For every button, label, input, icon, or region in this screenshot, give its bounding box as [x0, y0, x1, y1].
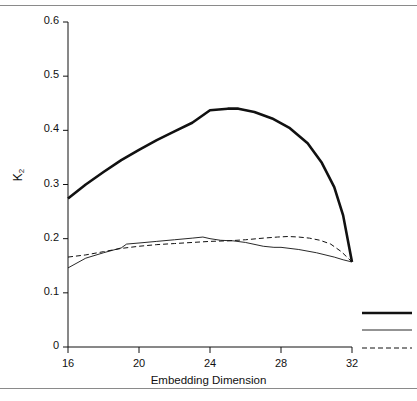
- x-axis-title: Embedding Dimension: [0, 374, 417, 386]
- y-axis-title-symbol: K: [11, 173, 25, 181]
- y-axis-title: K2: [11, 153, 25, 197]
- series-line-dashed: [68, 237, 352, 262]
- y-tick-label: 0: [15, 339, 59, 351]
- y-tick-label: 0.4: [15, 122, 59, 134]
- x-tick-label: 28: [261, 357, 301, 369]
- y-tick-label: 0.1: [15, 285, 59, 297]
- x-tick-label: 16: [48, 357, 88, 369]
- x-tick-label: 20: [119, 357, 159, 369]
- figure-container: 00.10.20.30.40.50.61620242832 Embedding …: [0, 0, 417, 401]
- chart-plot-area: [0, 0, 417, 401]
- x-tick-label: 32: [332, 357, 372, 369]
- axes-group: [63, 22, 352, 353]
- y-tick-label: 0.6: [15, 14, 59, 26]
- y-axis-title-subscript: 2: [17, 169, 26, 173]
- y-tick-label: 0.2: [15, 231, 59, 243]
- legend-group: [362, 313, 412, 348]
- series-group: [68, 109, 352, 268]
- x-tick-label: 24: [190, 357, 230, 369]
- series-line-thin-solid: [68, 237, 352, 268]
- y-tick-label: 0.5: [15, 68, 59, 80]
